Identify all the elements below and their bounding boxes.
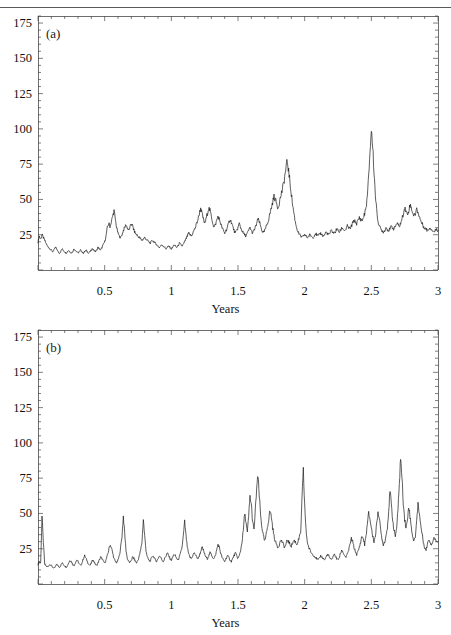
page-header-rule bbox=[0, 7, 451, 8]
y-tick-label: 75 bbox=[20, 471, 33, 486]
x-tick-label: 0.5 bbox=[97, 598, 113, 613]
y-tick-label: 125 bbox=[13, 400, 32, 415]
y-tick-label: 150 bbox=[13, 365, 32, 380]
panel-label-a: (a) bbox=[46, 26, 60, 42]
y-tick-label: 100 bbox=[13, 435, 32, 450]
y-tick-label: 50 bbox=[20, 506, 33, 521]
x-axis-title-a: Years bbox=[0, 302, 451, 317]
chart-panel-a: (a) 255075100125150175 0.511.522.53 Year… bbox=[0, 12, 451, 317]
y-tick-label: 25 bbox=[20, 541, 33, 556]
y-tick-label: 175 bbox=[13, 330, 32, 345]
page-header-text bbox=[0, 0, 451, 6]
y-tick-label: 125 bbox=[13, 86, 32, 101]
y-tick-label: 175 bbox=[13, 16, 32, 31]
plot-svg-b bbox=[0, 326, 451, 594]
chart-panel-b: (b) 255075100125150175 0.511.522.53 Year… bbox=[0, 326, 451, 631]
x-tick-label: 3 bbox=[435, 284, 441, 299]
x-tick-label: 2.5 bbox=[364, 284, 380, 299]
y-tick-label: 75 bbox=[20, 157, 33, 172]
x-tick-label: 2 bbox=[302, 284, 308, 299]
plot-area-a bbox=[0, 12, 451, 272]
x-axis-title-b: Years bbox=[0, 616, 451, 631]
panel-label-b: (b) bbox=[46, 340, 61, 356]
x-tick-label: 2.5 bbox=[364, 598, 380, 613]
x-tick-label: 1 bbox=[168, 598, 174, 613]
plot-area-b bbox=[0, 326, 451, 586]
x-tick-label: 3 bbox=[435, 598, 441, 613]
y-tick-label: 25 bbox=[20, 227, 33, 242]
y-tick-label: 50 bbox=[20, 192, 33, 207]
x-tick-label: 1.5 bbox=[230, 598, 246, 613]
x-tick-label: 0.5 bbox=[97, 284, 113, 299]
x-tick-label: 1 bbox=[168, 284, 174, 299]
y-tick-label: 100 bbox=[13, 121, 32, 136]
y-tick-label: 150 bbox=[13, 51, 32, 66]
plot-svg-a bbox=[0, 12, 451, 280]
x-tick-label: 2 bbox=[302, 598, 308, 613]
x-tick-label: 1.5 bbox=[230, 284, 246, 299]
